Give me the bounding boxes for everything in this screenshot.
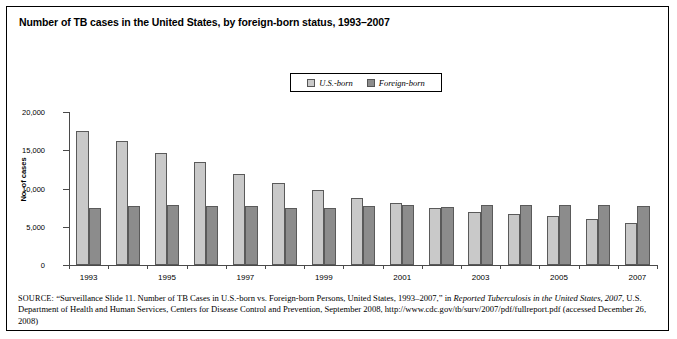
x-axis-tick	[422, 265, 423, 269]
x-axis-tick	[304, 265, 305, 269]
y-axis-tick-label: 15,000	[22, 146, 45, 155]
x-axis-tick	[500, 265, 501, 269]
x-axis-tick-label-2005: 2005	[550, 273, 568, 282]
bar-u-s-born-1999	[312, 190, 324, 265]
y-axis-line	[69, 112, 70, 265]
bar-foreign-born-2002	[441, 207, 453, 265]
bar-u-s-born-2003	[468, 212, 480, 265]
x-axis-tick-label-1997: 1997	[236, 273, 254, 282]
bar-u-s-born-1993	[76, 131, 88, 265]
bar-foreign-born-2001	[402, 205, 414, 265]
x-axis-tick	[108, 265, 109, 269]
y-axis-tick-label: 5,000	[26, 222, 45, 231]
bar-u-s-born-1994	[116, 141, 128, 265]
plot-area: No. of cases 05,00010,00015,00020,000 19…	[7, 7, 670, 332]
bar-u-s-born-2000	[351, 198, 363, 265]
x-axis-tick	[343, 265, 344, 269]
y-axis-tick-label: 20,000	[22, 108, 45, 117]
bar-u-s-born-1998	[272, 183, 284, 265]
source-note: SOURCE: “Surveillance Slide 11. Number o…	[18, 293, 658, 327]
bar-foreign-born-1996	[206, 206, 218, 265]
bar-u-s-born-1996	[194, 162, 206, 265]
source-label: SOURCE:	[18, 294, 54, 303]
bar-foreign-born-2007	[637, 206, 649, 265]
source-text-part1: “Surveillance Slide 11. Number of TB Cas…	[54, 293, 454, 303]
x-axis-tick	[618, 265, 619, 269]
bar-foreign-born-1999	[324, 208, 336, 265]
bar-foreign-born-1998	[285, 208, 297, 265]
x-axis-tick	[383, 265, 384, 269]
bar-foreign-born-2003	[481, 205, 493, 265]
y-axis-tick	[63, 112, 69, 113]
x-axis-tick	[147, 265, 148, 269]
x-axis-tick	[226, 265, 227, 269]
x-axis-line	[69, 265, 657, 266]
bar-foreign-born-1995	[167, 205, 179, 265]
y-axis-tick	[63, 227, 69, 228]
x-axis-tick	[539, 265, 540, 269]
bar-foreign-born-2004	[520, 205, 532, 265]
x-axis-tick-label-2001: 2001	[393, 273, 411, 282]
bar-foreign-born-1994	[128, 206, 140, 265]
bar-u-s-born-2004	[508, 214, 520, 265]
x-axis-tick-label-2007: 2007	[628, 273, 646, 282]
bar-foreign-born-2000	[363, 206, 375, 265]
x-axis-tick-label-2003: 2003	[472, 273, 490, 282]
bar-u-s-born-2006	[586, 219, 598, 265]
x-axis-tick-label-1999: 1999	[315, 273, 333, 282]
bar-u-s-born-2001	[390, 203, 402, 265]
x-axis-tick-label-1995: 1995	[158, 273, 176, 282]
x-axis-tick	[579, 265, 580, 269]
x-axis-tick	[265, 265, 266, 269]
y-axis-tick	[63, 150, 69, 151]
bar-foreign-born-1993	[89, 208, 101, 265]
bar-u-s-born-2005	[547, 216, 559, 265]
bar-u-s-born-2002	[429, 208, 441, 265]
x-axis-tick	[461, 265, 462, 269]
x-axis-tick	[69, 265, 70, 269]
bar-u-s-born-1997	[233, 174, 245, 265]
bar-u-s-born-1995	[155, 153, 167, 265]
y-axis-tick	[63, 189, 69, 190]
bar-u-s-born-2007	[625, 223, 637, 265]
x-axis-tick	[187, 265, 188, 269]
figure-container: Number of TB cases in the United States,…	[6, 6, 669, 331]
bar-foreign-born-1997	[245, 206, 257, 265]
bar-foreign-born-2006	[598, 205, 610, 265]
source-italic-title: Reported Tuberculosis in the United Stat…	[454, 293, 622, 303]
y-axis-title: No. of cases	[19, 150, 28, 210]
x-axis-tick	[657, 265, 658, 269]
y-axis-tick-label: 0	[41, 261, 45, 270]
y-axis-tick-label: 10,000	[22, 184, 45, 193]
bar-foreign-born-2005	[559, 205, 571, 265]
x-axis-tick-label-1993: 1993	[80, 273, 98, 282]
